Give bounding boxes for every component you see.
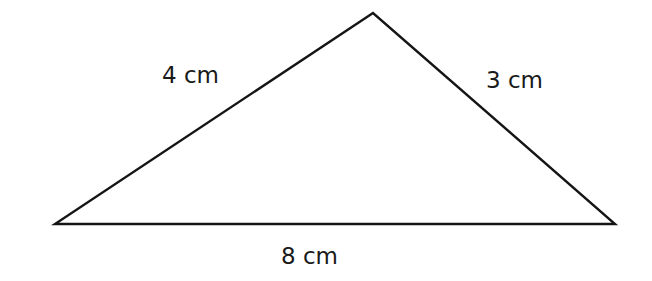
base-label: 8 cm [281, 243, 338, 269]
left-side-label: 4 cm [162, 62, 219, 88]
right-side-label: 3 cm [486, 67, 543, 93]
triangle-shape [55, 13, 615, 224]
triangle-diagram: 4 cm 3 cm 8 cm [0, 0, 652, 281]
